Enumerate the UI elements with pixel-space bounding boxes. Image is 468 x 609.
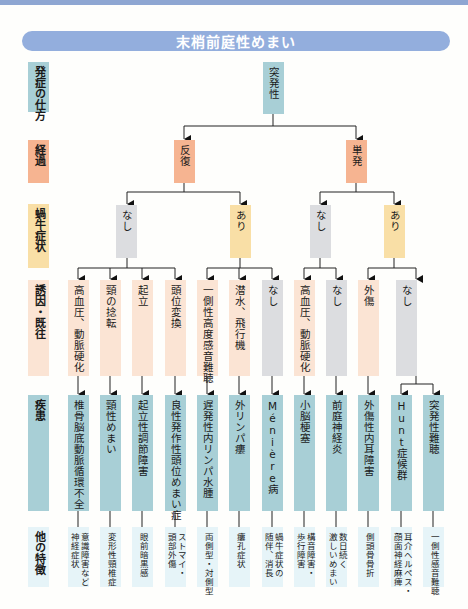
features-node: 眼前暗黒感 [132, 527, 153, 587]
disease-node: 椎骨脳底動脈循環不全 [68, 395, 89, 511]
disease-node: 良性発作性頭位めまい症 [165, 395, 186, 511]
features-node: 側頭骨骨折 [358, 527, 379, 587]
trigger-node: 潜水、飛行機 [229, 280, 250, 376]
features-node: 蝸牛症状の 随伴、消長 [262, 527, 283, 587]
node-course-single: 単発 [346, 140, 367, 183]
disease-node: 遅発性内リンパ水腫 [197, 395, 218, 511]
disease-node: Ménière病 [262, 395, 283, 511]
trigger-node: 頭位変換 [165, 280, 186, 376]
row-label-features: 他の特徴 [28, 527, 49, 587]
disease-node: 小脳梗塞 [294, 395, 315, 511]
features-node: 両側型・対側型 [197, 527, 218, 587]
node-cochlear-single-none: なし [310, 205, 331, 258]
trigger-node: 頸の捻転 [100, 280, 121, 376]
node-onset-sudden: 突発性 [263, 62, 284, 114]
disease-node: 突発性難聴 [423, 395, 444, 511]
trigger-node: 外傷 [358, 280, 379, 376]
features-node: ストマイ・ 頭部外傷 [165, 527, 186, 587]
row-label-cochlear: 蝸牛症状 [28, 204, 49, 268]
node-cochlear-recurrent-yes: あり [230, 205, 251, 258]
row-label-trigger: 誘因・既往 [28, 280, 49, 376]
features-node: 耳介ヘルペス・ 顔面神経麻痺 [391, 527, 412, 587]
disease-node: 前庭神経炎 [326, 395, 347, 511]
features-node: 構音障害・ 歩行障害 [294, 527, 315, 587]
trigger-node: 起立 [132, 280, 153, 376]
trigger-node: なし [262, 280, 283, 376]
disease-node: Hunt症候群 [391, 395, 412, 511]
row-label-disease: 疾患 [28, 395, 49, 511]
node-cochlear-single-yes: あり [384, 205, 405, 258]
row-label-onset: 発症の仕方 [28, 62, 49, 112]
node-course-recurrent: 反復 [174, 140, 195, 183]
disease-node: 起立性調節障害 [132, 395, 153, 511]
disease-node: 外リンパ瘻 [229, 395, 250, 511]
node-cochlear-recurrent-none: なし [116, 205, 137, 258]
disease-node: 外傷性内耳障害 [358, 395, 379, 511]
trigger-node: なし [326, 280, 347, 376]
trigger-node: なし [396, 280, 417, 376]
features-node: 瘻孔症状 [229, 527, 250, 587]
features-node: 数日続く 激しいめまい [326, 527, 347, 587]
trigger-node: 一側性高度感音難聴 [197, 280, 218, 376]
trigger-node: 高血圧、動脈硬化 [294, 280, 315, 376]
trigger-node: 高血圧、動脈硬化 [68, 280, 89, 376]
disease-node: 頸性めまい [100, 395, 121, 511]
features-node: 一側性感音難聴 [423, 527, 444, 587]
row-label-course: 経過 [28, 140, 49, 183]
features-node: 意識障害など 神経症状 [68, 527, 89, 587]
features-node: 変形性頸椎症 [100, 527, 121, 587]
